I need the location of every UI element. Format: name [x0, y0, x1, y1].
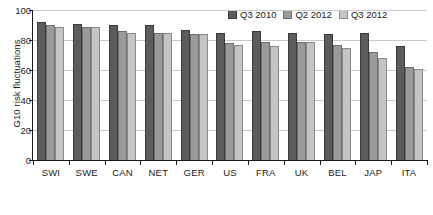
bar-group	[391, 10, 427, 160]
x-tick-mark	[176, 160, 177, 165]
bar-group	[69, 10, 105, 160]
x-tick-label-net: NET	[140, 167, 176, 178]
bar-group	[320, 10, 356, 160]
bar-groups	[33, 10, 427, 160]
x-tick-mark	[427, 160, 428, 165]
bar[interactable]	[145, 25, 154, 160]
x-tick-mark	[284, 160, 285, 165]
bar[interactable]	[154, 33, 163, 161]
x-tick-mark	[355, 160, 356, 165]
bar[interactable]	[127, 33, 136, 161]
bar[interactable]	[405, 67, 414, 160]
x-tick-label-swe: SWE	[69, 167, 105, 178]
x-tick-label-swi: SWI	[33, 167, 69, 178]
x-tick-label-bel: BEL	[320, 167, 356, 178]
bar[interactable]	[252, 31, 261, 160]
x-tick-label-ger: GER	[176, 167, 212, 178]
bar[interactable]	[378, 58, 387, 160]
x-tick-label-ita: ITA	[391, 167, 427, 178]
bar[interactable]	[163, 33, 172, 161]
x-tick-mark	[69, 160, 70, 165]
y-tick-label: 0	[26, 155, 31, 166]
bar-group	[284, 10, 320, 160]
x-tick-label-fra: FRA	[248, 167, 284, 178]
x-tick-label-jap: JAP	[355, 167, 391, 178]
bar-group	[355, 10, 391, 160]
y-tick-label: 20	[20, 125, 31, 136]
bar-group	[176, 10, 212, 160]
bar-group	[212, 10, 248, 160]
bar[interactable]	[234, 45, 243, 161]
x-tick-mark	[140, 160, 141, 165]
x-tick-mark	[320, 160, 321, 165]
bar[interactable]	[181, 30, 190, 161]
bar[interactable]	[46, 25, 55, 160]
caption-sliver	[0, 206, 433, 215]
x-tick-label-uk: UK	[284, 167, 320, 178]
bar[interactable]	[82, 27, 91, 161]
bar[interactable]	[324, 34, 333, 160]
x-tick-mark	[105, 160, 106, 165]
bar[interactable]	[297, 42, 306, 161]
x-tick-mark	[248, 160, 249, 165]
x-axis-tickmarks	[33, 160, 427, 166]
bar-group	[248, 10, 284, 160]
y-tick-label: 60	[20, 65, 31, 76]
bar[interactable]	[414, 69, 423, 161]
bar[interactable]	[270, 46, 279, 160]
x-tick-mark	[33, 160, 34, 165]
x-tick-mark	[212, 160, 213, 165]
bar[interactable]	[369, 52, 378, 160]
bar[interactable]	[306, 42, 315, 161]
y-tick-label: 40	[20, 95, 31, 106]
bar[interactable]	[73, 24, 82, 161]
x-tick-label-can: CAN	[105, 167, 141, 178]
bar[interactable]	[396, 46, 405, 160]
bar[interactable]	[261, 42, 270, 161]
plot-area: 020406080100	[33, 10, 427, 160]
y-tick-label: 100	[15, 5, 31, 16]
bar[interactable]	[199, 34, 208, 160]
x-tick-label-us: US	[212, 167, 248, 178]
bar[interactable]	[342, 48, 351, 161]
x-tick-mark	[391, 160, 392, 165]
bar[interactable]	[118, 31, 127, 160]
bar[interactable]	[225, 43, 234, 160]
bar[interactable]	[109, 25, 118, 160]
bar[interactable]	[216, 33, 225, 161]
bar[interactable]	[37, 22, 46, 160]
bar[interactable]	[360, 33, 369, 161]
y-tick-label: 80	[20, 35, 31, 46]
bar-group	[140, 10, 176, 160]
bar-group	[33, 10, 69, 160]
bar[interactable]	[333, 45, 342, 161]
bar-group	[105, 10, 141, 160]
bar[interactable]	[55, 27, 64, 161]
x-axis-labels: SWISWECANNETGERUSFRAUKBELJAPITA	[33, 167, 427, 178]
bar[interactable]	[91, 27, 100, 161]
bar[interactable]	[190, 34, 199, 160]
bar-chart: G10 risk fluctuations Q3 2010 Q2 2012 Q3…	[0, 0, 433, 215]
bar[interactable]	[288, 33, 297, 161]
